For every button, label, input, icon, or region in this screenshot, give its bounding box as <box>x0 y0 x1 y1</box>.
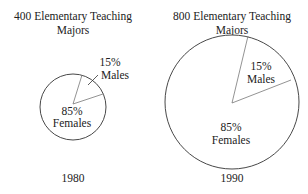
left-females-pct: 85% <box>61 105 83 117</box>
left-males-pct: 15% <box>99 56 121 68</box>
right-males-label: Males <box>247 73 276 85</box>
right-pie: 15% Males 85% Females <box>165 35 299 169</box>
left-males-label: Males <box>101 69 130 81</box>
right-females-label: Females <box>212 134 251 146</box>
left-females-label: Females <box>53 117 92 129</box>
left-year-label: 1980 <box>43 172 103 184</box>
right-males-pct: 15% <box>250 60 272 72</box>
pie-charts-canvas: 15% Males 85% Females 15% Males 85% Fema… <box>0 0 308 194</box>
right-year-label: 1990 <box>202 172 262 184</box>
left-pie: 15% Males 85% Females <box>40 56 130 140</box>
right-females-pct: 85% <box>220 121 242 133</box>
